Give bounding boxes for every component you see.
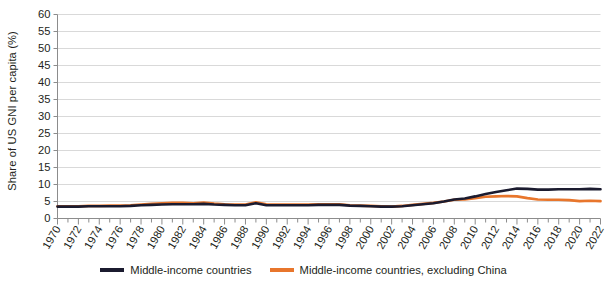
y-tick-label: 0 [44, 212, 50, 224]
chart-figure: Share of US GNI per capita (%) 051015202… [0, 0, 607, 286]
gridlines [58, 15, 601, 202]
x-tick-label: 2016 [520, 224, 543, 252]
x-tick-label: 1976 [103, 224, 126, 252]
x-tick-label: 2018 [541, 224, 564, 252]
y-tick-labels: 051015202530354045505560 [38, 8, 50, 224]
x-tick-label: 2014 [499, 224, 522, 252]
x-tick-label: 1988 [228, 224, 251, 252]
x-tick-label: 1984 [186, 224, 209, 252]
x-tick-label: 1996 [311, 224, 334, 252]
x-tick-marks [58, 219, 601, 225]
chart-legend: Middle-income countries Middle-income co… [0, 258, 607, 282]
y-tick-label: 15 [38, 161, 50, 173]
y-tick-label: 50 [38, 42, 50, 54]
x-tick-label: 1978 [123, 224, 146, 252]
x-tick-label: 1990 [249, 224, 272, 252]
x-tick-label: 2020 [562, 224, 585, 252]
x-tick-label: 1992 [270, 224, 293, 252]
y-tick-label: 20 [38, 144, 50, 156]
y-tick-label: 45 [38, 59, 50, 71]
x-tick-label: 2022 [583, 224, 606, 252]
y-tick-marks [54, 15, 58, 219]
y-tick-label: 40 [38, 76, 50, 88]
y-tick-label: 35 [38, 93, 50, 105]
legend-item-middle-income-countries-excluding-china[interactable]: Middle-income countries, excluding China [270, 264, 507, 276]
x-tick-label: 1986 [207, 224, 230, 252]
y-tick-label: 10 [38, 178, 50, 190]
series-lines [58, 189, 601, 207]
y-tick-label: 55 [38, 25, 50, 37]
legend-item-label: Middle-income countries, excluding China [300, 264, 507, 276]
x-tick-label: 1982 [165, 224, 188, 252]
x-tick-label: 1970 [40, 224, 63, 252]
x-tick-label: 1980 [144, 224, 167, 252]
legend-item-label: Middle-income countries [130, 264, 251, 276]
y-tick-label: 5 [44, 195, 50, 207]
x-tick-label: 2012 [478, 224, 501, 252]
legend-item-middle-income-countries[interactable]: Middle-income countries [100, 264, 251, 276]
x-tick-label: 1998 [332, 224, 355, 252]
x-tick-label: 2010 [458, 224, 481, 252]
x-tick-label: 2006 [416, 224, 439, 252]
line-chart-plot: 051015202530354045505560 197019721974197… [0, 0, 607, 286]
x-tick-label: 1974 [82, 224, 105, 252]
y-tick-label: 30 [38, 110, 50, 122]
x-tick-label: 2002 [374, 224, 397, 252]
x-tick-label: 1994 [291, 224, 314, 252]
x-tick-label: 1972 [61, 224, 84, 252]
x-tick-label: 2000 [353, 224, 376, 252]
y-tick-label: 25 [38, 127, 50, 139]
x-tick-label: 2008 [437, 224, 460, 252]
y-tick-label: 60 [38, 8, 50, 20]
x-tick-labels: 1970197219741976197819801982198419861988… [40, 224, 606, 252]
x-tick-label: 2004 [395, 224, 418, 252]
legend-swatch-icon [100, 268, 124, 271]
legend-swatch-icon [270, 268, 294, 271]
